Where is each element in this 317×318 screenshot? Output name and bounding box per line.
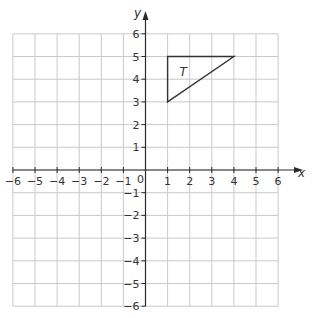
y-tick-label: −5 bbox=[123, 278, 139, 291]
coordinate-grid: −6−5−4−3−2−1123456−6−5−4−3−2−1123456 x y… bbox=[0, 0, 317, 318]
x-tick-label: 4 bbox=[230, 175, 237, 188]
x-tick-label: 2 bbox=[186, 175, 193, 188]
y-tick-label: 1 bbox=[133, 141, 140, 154]
y-tick-label: 5 bbox=[133, 51, 140, 64]
y-tick-label: 3 bbox=[133, 96, 140, 109]
x-tick-label: 1 bbox=[164, 175, 171, 188]
axes bbox=[13, 11, 303, 306]
y-tick-label: −1 bbox=[123, 187, 139, 200]
y-axis-label: y bbox=[133, 6, 142, 20]
shape-label: T bbox=[179, 65, 188, 79]
x-tick-label: 6 bbox=[275, 175, 282, 188]
x-tick-label: −6 bbox=[5, 175, 21, 188]
y-tick-label: −2 bbox=[123, 209, 139, 222]
y-tick-label: 4 bbox=[133, 73, 140, 86]
y-tick-label: −3 bbox=[123, 232, 139, 245]
x-tick-label: −3 bbox=[71, 175, 87, 188]
x-axis-label: x bbox=[297, 166, 306, 180]
y-axis-arrow-icon bbox=[143, 11, 149, 20]
origin-label: 0 bbox=[137, 173, 144, 186]
x-tick-label: −4 bbox=[49, 175, 65, 188]
y-tick-label: 6 bbox=[133, 28, 140, 41]
x-tick-label: 3 bbox=[208, 175, 215, 188]
x-tick-label: 5 bbox=[253, 175, 260, 188]
y-tick-label: −6 bbox=[123, 300, 139, 313]
x-tick-label: −5 bbox=[27, 175, 43, 188]
y-tick-label: −4 bbox=[123, 255, 139, 268]
x-tick-label: −2 bbox=[93, 175, 109, 188]
y-tick-label: 2 bbox=[133, 119, 140, 132]
